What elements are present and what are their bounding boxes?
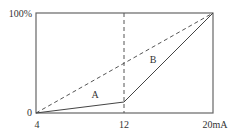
x-tick-12: 12 [119, 119, 129, 130]
x-tick-4: 4 [35, 119, 40, 130]
region-label-a: A [91, 89, 99, 100]
x-tick-20ma: 20mA [203, 119, 229, 130]
y-tick-100: 100% [9, 8, 32, 19]
region-label-b: B [150, 54, 157, 65]
chart: 100% 0 4 12 20mA A B [0, 0, 241, 135]
y-tick-0: 0 [27, 107, 32, 118]
